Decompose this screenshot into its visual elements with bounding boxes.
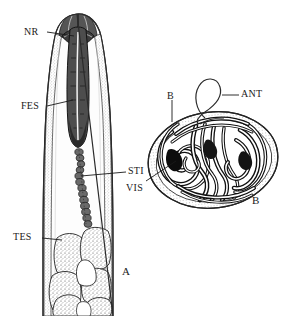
label-esophagus: FES	[21, 100, 39, 111]
caption-panel-a: A	[122, 265, 130, 277]
label-cyst-wall: B	[167, 90, 174, 101]
panel-a-worm-body	[43, 12, 113, 316]
label-intestine: STI	[128, 165, 144, 176]
caption-panel-b: B	[252, 194, 259, 206]
label-testis: TES	[13, 231, 32, 242]
figure-plate: NR FES STI TES ANT B VIS A B	[0, 0, 283, 316]
label-viscera: VIS	[126, 182, 143, 193]
label-nerve-ring: NR	[24, 26, 39, 37]
label-anterior-end: ANT	[241, 88, 262, 99]
figure-artwork	[0, 0, 283, 316]
panel-b-encysted-larva	[143, 79, 283, 216]
